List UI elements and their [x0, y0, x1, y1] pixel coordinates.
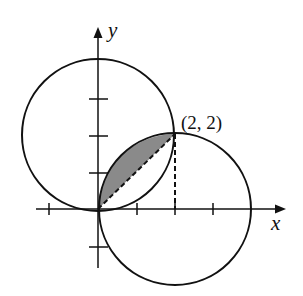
y-axis-label: y — [106, 18, 118, 42]
y-axis-arrow-icon — [94, 27, 103, 38]
x-axis-label: x — [270, 211, 281, 235]
point-label: (2, 2) — [181, 112, 222, 134]
diagram-canvas: y x (2, 2) — [0, 0, 303, 296]
